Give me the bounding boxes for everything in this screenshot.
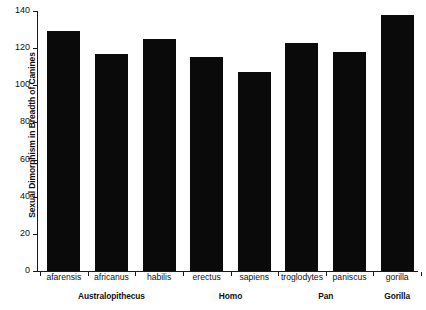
- y-tick-label: 120: [15, 42, 30, 53]
- plot-area: 020406080100120140: [37, 11, 418, 271]
- bar-chart: Sexual Dimorphism in Breadth of Canines …: [0, 0, 426, 310]
- category-label: gorilla: [352, 272, 426, 283]
- y-tick-label: 40: [20, 191, 30, 202]
- y-tick: 100: [33, 85, 38, 86]
- y-tick: 60: [33, 160, 38, 161]
- y-tick: 140: [33, 11, 38, 12]
- y-tick: 120: [33, 48, 38, 49]
- y-tick-label: 80: [20, 116, 30, 127]
- bar: [381, 15, 414, 271]
- bar: [333, 52, 366, 271]
- y-tick: 20: [33, 234, 38, 235]
- bar: [190, 57, 223, 271]
- y-axis-line: [37, 11, 38, 272]
- bar: [47, 31, 80, 271]
- bar: [285, 43, 318, 271]
- group-label: Gorilla: [327, 291, 426, 302]
- bar: [95, 54, 128, 271]
- bar: [143, 39, 176, 271]
- y-tick-label: 60: [20, 154, 30, 165]
- bar: [238, 72, 271, 271]
- y-tick-label: 100: [15, 79, 30, 90]
- y-tick: 40: [33, 197, 38, 198]
- y-tick-label: 20: [20, 228, 30, 239]
- y-tick: 80: [33, 122, 38, 123]
- y-tick-label: 140: [15, 5, 30, 16]
